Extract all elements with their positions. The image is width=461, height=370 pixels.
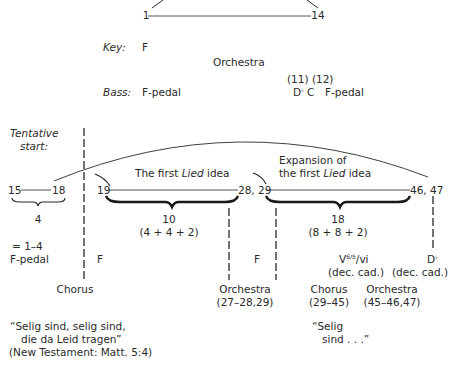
forces-chorus-2: Chorus (311, 283, 348, 295)
harmony-figure: 6/5 (346, 253, 356, 260)
measure-start: 1 (143, 9, 150, 21)
first-lied-grouping: (4 + 4 + 2) (139, 226, 198, 238)
quote-1-line-1: “Selig sind, selig sind, (10, 320, 126, 332)
end-chord-d: D (427, 253, 435, 265)
bass-start: F-pedal (142, 86, 181, 98)
title-text: idea (204, 167, 230, 179)
first-lied-title: The first Lied idea (135, 167, 229, 179)
harmony-target: /vi (356, 253, 369, 265)
tentative-equals: = 1–4 (12, 240, 43, 252)
tentative-label-1: Tentative (10, 127, 59, 139)
flat-sign: ♭ (301, 86, 304, 93)
flat-sign: ♭ (435, 253, 438, 260)
key-label: Key: (103, 41, 126, 53)
title-text: the first (279, 167, 323, 179)
bass-d-flat: D♭ (293, 86, 304, 98)
quote-2-line-1: “Selig (312, 320, 343, 332)
tentative-bass: F-pedal (10, 253, 49, 265)
quote-1-source: (New Testament: Matt. 5:4) (9, 346, 152, 358)
expansion-harmony-note: (dec. cad.) (328, 266, 384, 278)
tentative-label-2: start: (20, 140, 48, 152)
forces-chorus-2-range: (29–45) (309, 296, 349, 308)
bass-end: F-pedal (325, 86, 364, 98)
first-lied-m-end: 28, 29 (238, 184, 271, 196)
forces-orchestra-2: Orchestra (366, 283, 418, 295)
title-italic: Lied (323, 167, 345, 179)
forces-orchestra-1: Orchestra (219, 283, 271, 295)
expansion-end-note: (dec. cad.) (392, 266, 448, 278)
expansion-title-1: Expansion of (279, 154, 347, 166)
quote-2-line-2: sind . . .” (322, 333, 369, 345)
quote-1-line-2: die da Leid tragen” (21, 333, 121, 345)
expansion-title-2: the first Lied idea (279, 167, 371, 179)
section-label-orchestra: Orchestra (213, 56, 265, 68)
expansion-end-chord: D♭ (427, 253, 438, 265)
tentative-m-start: 15 (8, 184, 21, 196)
measure-end: 14 (311, 9, 324, 21)
tentative-length: 4 (35, 213, 42, 225)
bass-c: C (307, 86, 314, 98)
tentative-m-end: 18 (52, 184, 65, 196)
key-value: F (142, 41, 148, 53)
bass-d: D (293, 86, 301, 98)
bass-measure-numbers: (11) (12) (287, 73, 333, 85)
expansion-key: F (254, 253, 260, 265)
title-text: The first (135, 167, 182, 179)
first-lied-key: F (97, 253, 103, 265)
forces-orchestra-1-range: (27–28,29) (217, 296, 274, 308)
bass-label: Bass: (103, 86, 131, 98)
first-lied-m-start: 19 (97, 184, 110, 196)
first-lied-length: 10 (162, 213, 175, 225)
expansion-grouping: (8 + 8 + 2) (308, 226, 367, 238)
forces-chorus-1: Chorus (57, 283, 94, 295)
title-italic: Lied (182, 167, 204, 179)
expansion-m-end: 46, 47 (410, 184, 443, 196)
title-text: idea (345, 167, 371, 179)
expansion-harmony: V6/5/vi (339, 253, 369, 265)
forces-orchestra-2-range: (45–46,47) (364, 296, 421, 308)
expansion-length: 18 (331, 213, 344, 225)
